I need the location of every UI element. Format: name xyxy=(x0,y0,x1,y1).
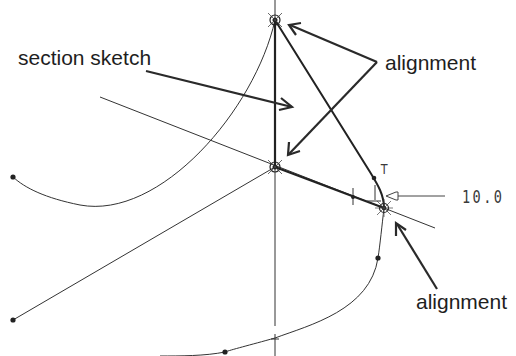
endpoint-dot xyxy=(10,317,15,322)
endpoint-dot xyxy=(10,174,15,179)
sketch-bottom-edge xyxy=(275,167,384,208)
alignment-label-bottom: alignment xyxy=(416,291,507,312)
lower-left-line xyxy=(13,167,275,320)
dimension-arrow-icon xyxy=(386,192,398,200)
lower-right-curve xyxy=(160,208,384,356)
endpoint-dot xyxy=(351,195,355,199)
endpoint-dot xyxy=(222,349,227,354)
callout-arrow-alignment-top xyxy=(289,23,377,62)
alignment-marker-top xyxy=(268,13,282,27)
alignment-marker-center xyxy=(268,160,282,174)
dimension-value: 10.0 xyxy=(462,189,504,206)
callout-arrow-alignment-bottom xyxy=(396,223,437,289)
endpoint-dot xyxy=(375,255,380,260)
alignment-marker-right xyxy=(375,199,393,217)
callout-arrow-alignment-center xyxy=(288,62,377,155)
callout-arrow-section-sketch xyxy=(146,71,292,110)
endpoint-dot xyxy=(372,176,377,181)
sketch-slanted-edge xyxy=(275,20,384,208)
alignment-label-top: alignment xyxy=(385,52,476,73)
tangent-marker: T xyxy=(381,162,388,176)
section-sketch-label: section sketch xyxy=(18,47,151,68)
